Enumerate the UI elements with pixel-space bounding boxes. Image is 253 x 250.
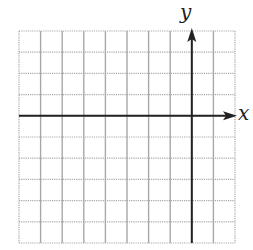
axes: [19, 28, 237, 243]
x-axis-label: x: [238, 103, 249, 123]
coordinate-grid: [0, 0, 253, 250]
y-axis-label: y: [180, 2, 191, 22]
grid-lines: [19, 31, 235, 243]
